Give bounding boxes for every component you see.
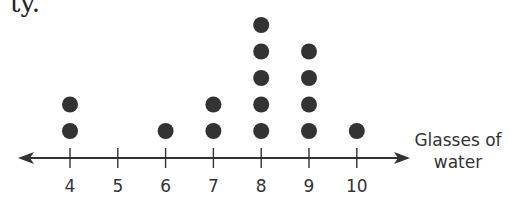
data-dot: [301, 70, 317, 86]
data-dot: [158, 123, 174, 139]
data-dots: [62, 17, 365, 139]
data-dot: [253, 123, 269, 139]
tick-label: 9: [304, 176, 315, 196]
data-dot: [62, 123, 78, 139]
tick-label: 8: [256, 176, 267, 196]
tick-label: 4: [65, 176, 76, 196]
data-dot: [205, 97, 221, 113]
data-dot: [301, 97, 317, 113]
data-dot: [253, 17, 269, 33]
axis-title-line1: Glasses of: [414, 130, 502, 150]
data-dot: [253, 70, 269, 86]
tick-label: 5: [112, 176, 123, 196]
dot-plot: 45678910 Glasses of water: [0, 0, 517, 204]
data-dot: [301, 123, 317, 139]
data-dot: [349, 123, 365, 139]
data-dot: [253, 44, 269, 60]
data-dot: [205, 123, 221, 139]
data-dot: [62, 97, 78, 113]
axis-title-line2: water: [434, 152, 482, 172]
data-dot: [301, 44, 317, 60]
number-line-axis: [18, 148, 410, 168]
tick-label: 7: [208, 176, 219, 196]
tick-labels: 45678910: [65, 176, 368, 196]
tick-label: 10: [346, 176, 368, 196]
tick-label: 6: [160, 176, 171, 196]
data-dot: [253, 97, 269, 113]
